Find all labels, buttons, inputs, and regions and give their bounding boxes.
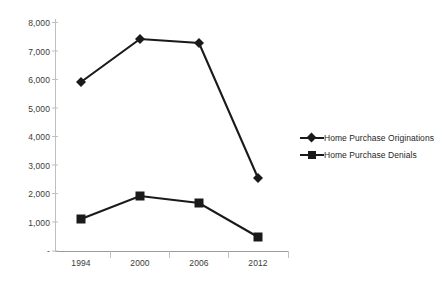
legend-label: Home Purchase Denials xyxy=(324,150,417,160)
data-point-marker xyxy=(253,173,263,183)
series-home-purchase-originations xyxy=(76,34,263,183)
data-point-marker xyxy=(195,199,204,208)
chart-legend: Home Purchase Originations Home Purchase… xyxy=(300,129,442,163)
legend-marker-square-icon xyxy=(300,149,324,161)
series-home-purchase-denials xyxy=(77,192,263,242)
legend-marker-diamond-icon xyxy=(300,132,324,144)
legend-label: Home Purchase Originations xyxy=(324,133,434,143)
x-tick-label: 2000 xyxy=(110,258,170,268)
data-point-marker xyxy=(77,215,86,224)
data-point-marker xyxy=(136,192,145,201)
line-chart: - 1,000 2,000 3,000 4,000 5,000 6,000 7,… xyxy=(0,0,445,291)
x-tick-label: 2012 xyxy=(228,258,288,268)
data-point-marker xyxy=(254,233,263,242)
x-axis-tick-labels: 1994 2000 2006 2012 xyxy=(55,258,290,274)
legend-entry-denials[interactable]: Home Purchase Denials xyxy=(300,146,442,163)
series-markers-originations xyxy=(76,34,263,183)
x-tick-label: 2006 xyxy=(169,258,229,268)
series-line-originations xyxy=(81,39,258,178)
data-point-marker xyxy=(194,38,204,48)
legend-entry-originations[interactable]: Home Purchase Originations xyxy=(300,129,442,146)
x-tick-label: 1994 xyxy=(51,258,111,268)
x-axis-ticks xyxy=(111,251,289,258)
series-line-denials xyxy=(81,196,258,237)
